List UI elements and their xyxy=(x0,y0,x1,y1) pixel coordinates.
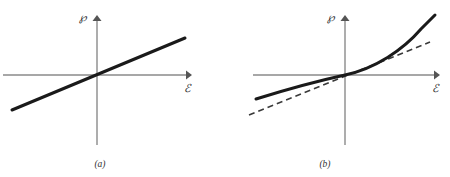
panel-a: ℘ ℰ (a) xyxy=(0,0,225,177)
panel-b-x-axis-arrowhead xyxy=(434,71,440,80)
panel-a-linear-response-curve xyxy=(12,38,185,110)
panel-a-caption: (a) xyxy=(94,159,105,170)
panel-a-axes xyxy=(3,15,192,145)
panel-b: ℘ ℰ (b) xyxy=(225,0,450,177)
panel-b-y-axis-arrowhead xyxy=(341,15,350,21)
panel-b-caption: (b) xyxy=(319,159,330,170)
panel-b-y-axis-label: ℘ xyxy=(327,11,336,24)
panel-b-x-axis-label: ℰ xyxy=(432,82,440,94)
panel-a-y-axis-label: ℘ xyxy=(79,11,88,24)
panel-b-linear-tangent-reference-dashed xyxy=(249,42,430,115)
panel-a-x-axis-arrowhead xyxy=(186,71,192,80)
panel-a-x-axis-label: ℰ xyxy=(184,82,192,94)
panel-a-y-axis-arrowhead xyxy=(93,15,102,21)
figure-root: ℘ ℰ (a) ℘ ℰ (b) xyxy=(0,0,450,177)
panel-b-axes xyxy=(253,15,440,145)
panel-a-plot: ℘ ℰ (a) xyxy=(0,0,225,177)
panel-b-plot: ℘ ℰ (b) xyxy=(225,0,450,177)
